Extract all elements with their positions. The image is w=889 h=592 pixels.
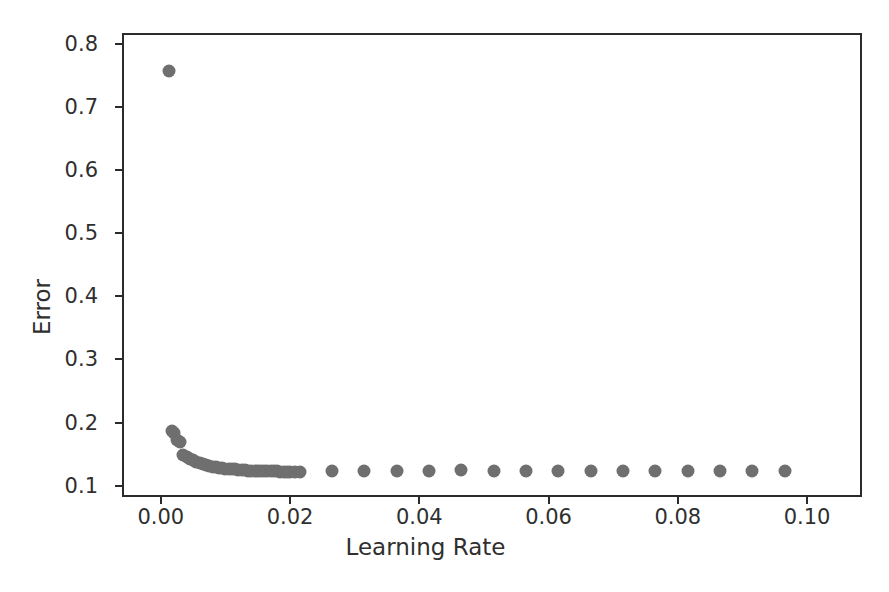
y-tick-label: 0.8 — [32, 32, 98, 56]
x-tick-label: 0.08 — [654, 505, 701, 529]
y-tick-label: 0.6 — [32, 158, 98, 182]
data-point — [552, 464, 565, 477]
y-tick-label: 0.2 — [32, 411, 98, 435]
y-tick-label-wrap: 0.2 — [32, 423, 110, 447]
y-tick-mark — [115, 232, 122, 234]
y-tick-label: 0.1 — [32, 474, 98, 498]
x-tick-label: 0.02 — [267, 505, 314, 529]
y-tick-mark — [115, 43, 122, 45]
data-point — [173, 436, 186, 449]
x-tick-label: 0.00 — [137, 505, 184, 529]
data-point — [163, 64, 176, 77]
data-point — [326, 464, 339, 477]
y-tick-mark — [115, 295, 122, 297]
y-tick-label: 0.4 — [32, 284, 98, 308]
data-point — [649, 465, 662, 478]
plot-area — [122, 33, 862, 497]
data-point — [681, 464, 694, 477]
y-tick-label-wrap: 0.4 — [32, 296, 110, 320]
x-tick-label: 0.04 — [396, 505, 443, 529]
data-point — [390, 465, 403, 478]
data-point — [584, 464, 597, 477]
y-tick-label-wrap: 0.3 — [32, 359, 110, 383]
x-tick-mark — [418, 497, 420, 504]
y-tick-mark — [115, 358, 122, 360]
data-point — [713, 465, 726, 478]
y-tick-mark — [115, 106, 122, 108]
x-axis-label: Learning Rate — [0, 534, 889, 560]
y-tick-label-wrap: 0.8 — [32, 44, 110, 68]
data-point — [778, 465, 791, 478]
x-tick-mark — [289, 497, 291, 504]
data-point — [358, 465, 371, 478]
y-tick-label-wrap: 0.6 — [32, 170, 110, 194]
x-tick-mark — [160, 497, 162, 504]
y-tick-label: 0.3 — [32, 347, 98, 371]
x-tick-mark — [806, 497, 808, 504]
y-tick-label-wrap: 0.7 — [32, 107, 110, 131]
data-point — [519, 465, 532, 478]
data-point — [455, 463, 468, 476]
y-tick-label: 0.5 — [32, 221, 98, 245]
x-tick-mark — [677, 497, 679, 504]
x-tick-label: 0.06 — [525, 505, 572, 529]
data-point — [746, 465, 759, 478]
data-point — [487, 465, 500, 478]
y-tick-mark — [115, 485, 122, 487]
data-point — [616, 465, 629, 478]
y-tick-label: 0.7 — [32, 95, 98, 119]
scatter-series — [124, 35, 860, 495]
data-point — [293, 465, 306, 478]
x-axis-label-text: Learning Rate — [346, 534, 506, 560]
y-tick-mark — [115, 422, 122, 424]
data-point — [423, 464, 436, 477]
y-tick-mark — [115, 169, 122, 171]
x-tick-mark — [548, 497, 550, 504]
y-tick-label-wrap: 0.1 — [32, 486, 110, 510]
y-tick-label-wrap: 0.5 — [32, 233, 110, 257]
x-tick-label: 0.10 — [784, 505, 831, 529]
figure-canvas: Error 0.10.20.30.40.50.60.70.8 0.000.020… — [0, 0, 889, 592]
